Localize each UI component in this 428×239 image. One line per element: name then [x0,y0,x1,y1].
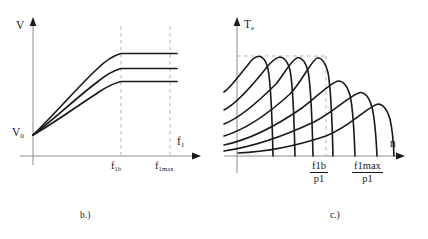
plot-c-tick-f1b-numerator-subscript: 1b [316,160,327,171]
plot-b-curve-upper [33,54,177,136]
plot-c-tick-f1max-numerator-subscript: 1max [358,160,381,171]
plot-c-tick-label-f1max-over-p1: f1max p1 [352,160,383,184]
plot-c-x-axis-label: n [390,138,396,150]
plot-b-curve-middle [33,69,177,136]
plot-c-tick-f1b-numerator: f1b [310,160,328,171]
plot-b-curve-lower [33,82,177,136]
panel-b-voltage-vs-frequency: V V0 f1 f1b f1max b.) [0,0,214,239]
plot-c-x-axis-label-text: n [390,137,396,149]
plot-b-origin-label-subscript: 0 [20,132,24,140]
plot-b-y-axis-label: V [16,20,24,32]
plot-b-tick-label-f1b: f1b [111,161,121,172]
plot-c-tick-f1b-denominator: p1 [310,173,328,184]
plot-c-tick-label-f1b-over-p1: f1b p1 [310,160,328,184]
plot-b-tick-label-f1max-subscript: 1max [159,165,174,172]
plot-c-y-axis-arrowhead [234,17,241,26]
plot-c-tick-f1max-denominator-subscript: 1 [367,173,372,184]
plot-b-y-axis-label-text: V [16,19,24,31]
plot-c-y-axis-label-text: T [244,18,251,30]
figure-root: V V0 f1 f1b f1max b.) [0,0,428,239]
plot-c-curve-5 [224,81,355,156]
plot-b-tick-label-f1max: f1max [155,161,174,172]
plot-c-tick-f1max-numerator: f1max [352,160,383,171]
plot-c-tick-f1max-denominator: p1 [352,173,383,184]
plot-c-x-axis-arrowhead [396,153,405,160]
plot-b-tick-label-f1b-subscript: 1b [115,165,122,172]
plot-b-x-axis-label-subscript: 1 [181,141,185,149]
panel-b-caption: b.) [80,211,90,221]
plot-c-y-axis-label-subscript: e [251,24,254,32]
plot-b-x-axis-label: f1 [177,136,185,149]
panel-c-torque-vs-speed: Te n f1b p1 f1max p1 c.) [214,0,428,239]
plot-c-y-axis-label: Te [244,19,254,32]
plot-b-graphic [0,0,214,239]
plot-c-tick-f1b-denominator-subscript: 1 [319,173,324,184]
plot-c-curve-7 [238,104,394,156]
panel-c-caption-text: c.) [330,210,340,220]
plot-b-y-axis-arrowhead [30,17,37,26]
panel-c-caption: c.) [330,211,340,221]
plot-b-origin-label: V0 [12,127,24,140]
plot-b-x-axis-arrowhead [192,153,201,160]
plot-c-graphic [214,0,428,239]
panel-b-caption-text: b.) [80,210,90,220]
